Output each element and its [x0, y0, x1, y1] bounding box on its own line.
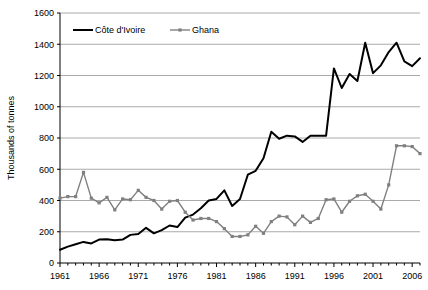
data-point-1997: [340, 211, 343, 214]
data-point-1981: [215, 220, 218, 223]
x-tick-label-1966: 1966: [89, 271, 109, 281]
data-point-1978: [191, 218, 194, 221]
y-tick-label-1400: 1400: [34, 40, 54, 50]
data-point-2006: [411, 145, 414, 148]
data-point-2005: [403, 144, 406, 147]
data-point-1973: [152, 199, 155, 202]
legend-swatch-marker-1: [178, 28, 181, 31]
data-point-1990: [285, 215, 288, 218]
data-point-1965: [90, 197, 93, 200]
chart-background: [0, 0, 428, 290]
data-point-2002: [379, 207, 382, 210]
data-point-1972: [144, 196, 147, 199]
data-point-1961: [58, 197, 61, 200]
data-point-1985: [246, 233, 249, 236]
y-tick-label-600: 600: [39, 165, 54, 175]
x-tick-label-1986: 1986: [246, 271, 266, 281]
data-point-1975: [168, 200, 171, 203]
x-tick-label-1981: 1981: [207, 271, 227, 281]
y-tick-label-800: 800: [39, 133, 54, 143]
y-tick-label-1600: 1600: [34, 8, 54, 18]
data-point-2003: [387, 183, 390, 186]
data-point-2001: [371, 200, 374, 203]
data-point-1963: [74, 195, 77, 198]
data-point-1992: [301, 215, 304, 218]
data-point-1964: [82, 171, 85, 174]
data-point-1970: [129, 198, 132, 201]
data-point-1977: [184, 211, 187, 214]
data-point-1974: [160, 207, 163, 210]
y-tick-label-0: 0: [49, 258, 54, 268]
x-tick-label-2006: 2006: [402, 271, 422, 281]
y-tick-label-400: 400: [39, 196, 54, 206]
data-point-1993: [309, 221, 312, 224]
data-point-1994: [317, 217, 320, 220]
data-point-1969: [121, 197, 124, 200]
x-tick-label-1996: 1996: [324, 271, 344, 281]
data-point-1987: [262, 232, 265, 235]
y-tick-label-1000: 1000: [34, 102, 54, 112]
legend-label-1: Ghana: [192, 25, 219, 35]
data-point-1967: [105, 196, 108, 199]
data-point-1976: [176, 199, 179, 202]
y-tick-label-1200: 1200: [34, 71, 54, 81]
y-tick-label-200: 200: [39, 227, 54, 237]
data-point-1966: [98, 201, 101, 204]
data-point-1988: [270, 220, 273, 223]
data-point-1971: [137, 189, 140, 192]
data-point-1984: [238, 235, 241, 238]
x-tick-label-1961: 1961: [50, 271, 70, 281]
x-tick-label-1991: 1991: [285, 271, 305, 281]
data-point-1979: [199, 217, 202, 220]
chart-canvas: 02004006008001000120014001600 1961196619…: [0, 0, 428, 290]
data-point-2000: [364, 193, 367, 196]
data-point-2007: [418, 152, 421, 155]
data-point-1982: [223, 227, 226, 230]
data-point-1962: [66, 195, 69, 198]
legend-label-0: Côte d'Ivoire: [95, 25, 145, 35]
data-point-1996: [332, 197, 335, 200]
data-point-1991: [293, 223, 296, 226]
data-point-1998: [348, 200, 351, 203]
data-point-1986: [254, 225, 257, 228]
data-point-2004: [395, 144, 398, 147]
cocoa-production-line-chart: 02004006008001000120014001600 1961196619…: [0, 0, 428, 290]
data-point-1980: [207, 217, 210, 220]
data-point-1999: [356, 194, 359, 197]
y-axis-title: Thousands of tonnes: [6, 95, 16, 180]
x-tick-label-1971: 1971: [128, 271, 148, 281]
x-tick-label-2001: 2001: [363, 271, 383, 281]
data-point-1983: [231, 235, 234, 238]
y-axis-title-group: Thousands of tonnes: [6, 95, 16, 180]
data-point-1968: [113, 208, 116, 211]
data-point-1989: [278, 215, 281, 218]
data-point-1995: [324, 198, 327, 201]
x-tick-label-1976: 1976: [167, 271, 187, 281]
